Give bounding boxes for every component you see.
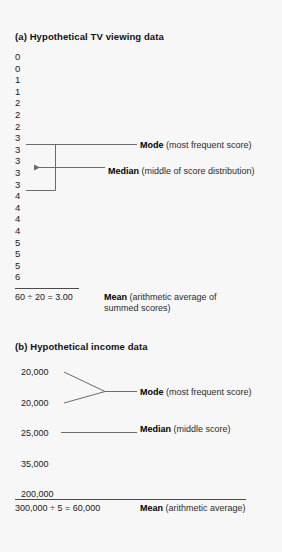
panel-a-mode-annotation: Mode (most frequent score) — [140, 140, 252, 150]
panel-b-mode-connector — [64, 372, 137, 403]
score-item: 2 — [15, 97, 35, 109]
panel-a-mean-annotation: Mean (arithmetic average of summed score… — [104, 292, 234, 314]
income-item: 200,000 — [21, 489, 54, 499]
score-item: 4 — [15, 225, 35, 237]
panel-b-mean-annotation: Mean (arithmetic average) — [140, 503, 246, 513]
mean-term-label: Mean — [104, 292, 127, 302]
score-item: 3 — [15, 167, 35, 179]
score-item: 2 — [15, 109, 35, 121]
mode-description: (most frequent score) — [166, 140, 252, 150]
panel-b-mode-annotation: Mode (most frequent score) — [140, 387, 252, 397]
score-item: 4 — [15, 213, 35, 225]
score-item: 1 — [15, 86, 35, 98]
panel-b-mean-equation: 300,000 ÷ 5 = 60,000 — [15, 503, 100, 513]
mean-term-label: Mean — [140, 503, 163, 513]
score-item: 6 — [15, 271, 35, 283]
score-item: 5 — [15, 260, 35, 272]
income-item: 20,000 — [21, 367, 49, 377]
income-item: 35,000 — [21, 459, 49, 469]
median-term-label: Median — [108, 166, 139, 176]
income-item: 25,000 — [21, 428, 49, 438]
score-item: 3 — [15, 132, 35, 144]
mode-description: (most frequent score) — [166, 387, 252, 397]
panel-b-title: (b) Hypothetical income data — [15, 341, 148, 352]
median-description: (middle of score distribution) — [142, 166, 255, 176]
score-item: 5 — [15, 248, 35, 260]
mode-term-label: Mode — [140, 140, 164, 150]
score-item: 3 — [15, 144, 35, 156]
score-item: 0 — [15, 63, 35, 75]
median-description: (middle score) — [174, 424, 231, 434]
median-term-label: Median — [140, 424, 171, 434]
income-item: 20,000 — [21, 398, 49, 408]
panel-a-title: (a) Hypothetical TV viewing data — [15, 31, 164, 42]
score-item: 5 — [15, 237, 35, 249]
central-tendency-figure: (a) Hypothetical TV viewing data 0 0 1 1… — [0, 0, 282, 552]
panel-a-median-annotation: Median (middle of score distribution) — [108, 166, 255, 176]
score-item: 4 — [15, 190, 35, 202]
mode-branch-upper-b — [64, 372, 105, 392]
score-item: 3 — [15, 155, 35, 167]
mean-description: (arithmetic average) — [166, 503, 246, 513]
annotation-lines-layer — [0, 0, 282, 552]
score-item: 2 — [15, 121, 35, 133]
score-item: 4 — [15, 202, 35, 214]
score-item: 0 — [15, 51, 35, 63]
mode-term-label: Mode — [140, 387, 164, 397]
panel-a-score-list: 0 0 1 1 2 2 2 3 3 3 3 3 4 4 4 4 5 5 5 6 — [15, 51, 35, 283]
mode-branch-lower-b — [64, 392, 105, 404]
panel-a-mean-equation: 60 ÷ 20 = 3.00 — [15, 292, 73, 302]
panel-b-median-annotation: Median (middle score) — [140, 424, 231, 434]
score-item: 3 — [15, 179, 35, 191]
score-item: 1 — [15, 74, 35, 86]
